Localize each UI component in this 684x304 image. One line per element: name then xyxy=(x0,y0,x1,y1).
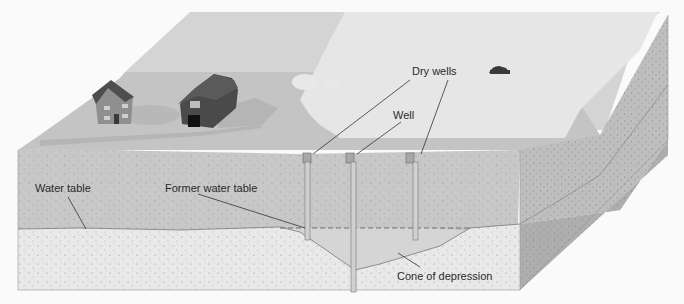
diagram-canvas: Dry wells Well Water table Former water … xyxy=(0,0,684,304)
unsaturated-zone xyxy=(18,148,520,230)
label-water-table: Water table xyxy=(35,183,91,194)
label-former-water-table: Former water table xyxy=(165,183,257,194)
label-well: Well xyxy=(393,110,414,121)
cross-section-diagram xyxy=(0,0,684,304)
label-cone-of-depression: Cone of depression xyxy=(397,271,492,282)
label-dry-wells: Dry wells xyxy=(412,66,457,77)
